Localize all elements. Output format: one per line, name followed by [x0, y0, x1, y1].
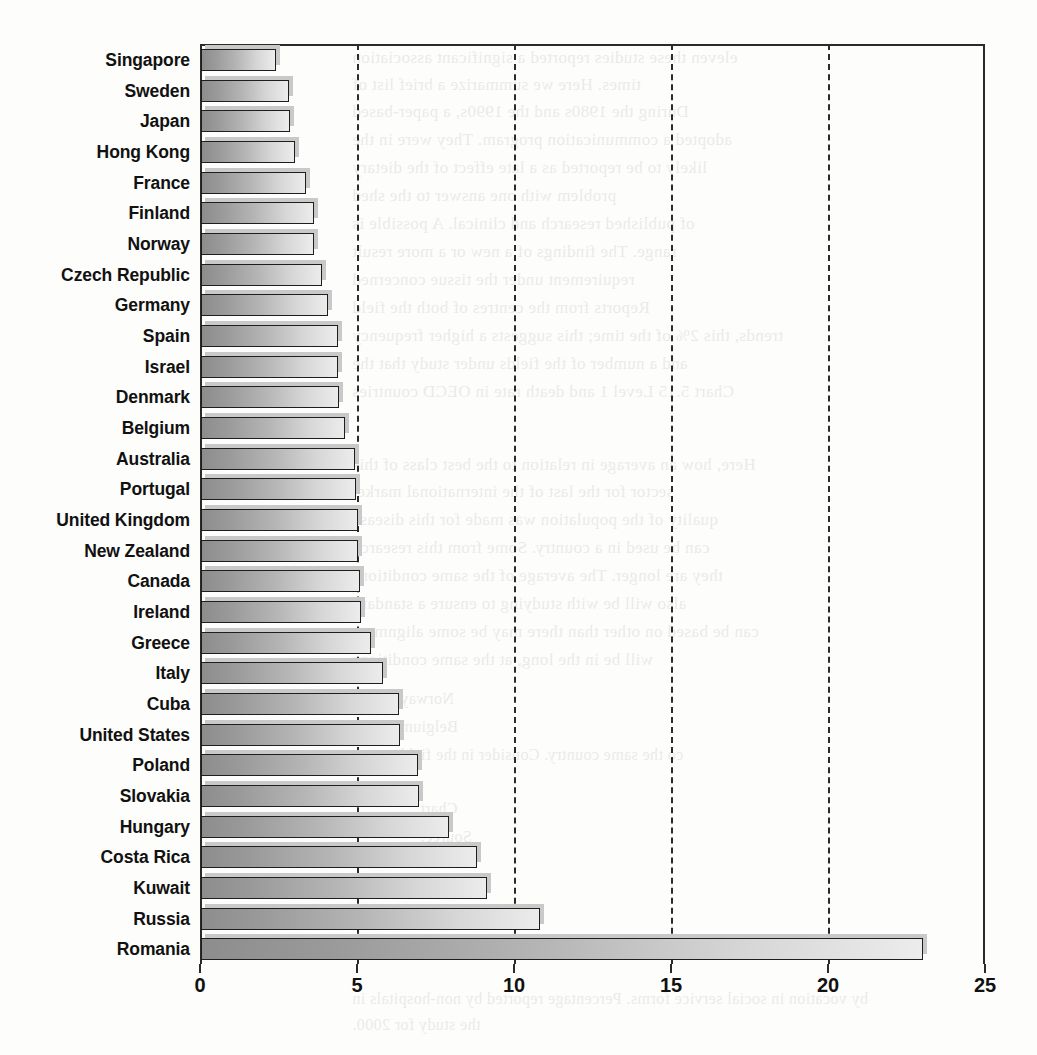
bar-wrapper — [201, 202, 314, 224]
category-label: Greece — [131, 632, 190, 653]
category-label: Ireland — [133, 601, 190, 622]
bar-row: Cuba — [0, 688, 1037, 720]
category-label: Israel — [145, 356, 190, 377]
bar-wrapper — [201, 294, 328, 316]
category-label: Romania — [117, 939, 190, 960]
bar-chart: SingaporeSwedenJapanHong KongFranceFinla… — [0, 0, 1037, 1055]
category-label: Singapore — [105, 49, 190, 70]
category-label: Canada — [127, 571, 190, 592]
bar-row: Slovakia — [0, 780, 1037, 812]
bar — [201, 509, 358, 531]
bar — [201, 540, 358, 562]
bar-wrapper — [201, 233, 314, 255]
bar-wrapper — [201, 172, 306, 194]
bar-wrapper — [201, 816, 449, 838]
bar-row: Costa Rica — [0, 841, 1037, 873]
bar-wrapper — [201, 724, 400, 746]
x-tick-label: 0 — [194, 974, 205, 997]
bar-row: Romania — [0, 933, 1037, 965]
category-label: Spain — [143, 325, 190, 346]
x-tick-mark — [356, 964, 358, 973]
bar — [201, 785, 419, 807]
bar-row: Hong Kong — [0, 136, 1037, 168]
bar-row: Belgium — [0, 412, 1037, 444]
x-tick-label: 25 — [974, 974, 996, 997]
bar-wrapper — [201, 264, 322, 286]
category-label: New Zealand — [84, 540, 190, 561]
bar — [201, 693, 399, 715]
bar — [201, 233, 314, 255]
bar — [201, 202, 314, 224]
bar — [201, 632, 371, 654]
category-label: Japan — [140, 111, 190, 132]
x-tick-label: 5 — [351, 974, 362, 997]
bar-row: Denmark — [0, 381, 1037, 413]
category-label: Portugal — [120, 479, 190, 500]
bar-wrapper — [201, 785, 419, 807]
bar-wrapper — [201, 846, 477, 868]
bar-wrapper — [201, 570, 360, 592]
category-label: Cuba — [147, 693, 190, 714]
bar-wrapper — [201, 509, 358, 531]
bar-wrapper — [201, 325, 338, 347]
x-tick-label: 20 — [817, 974, 839, 997]
bar-wrapper — [201, 662, 383, 684]
bar-row: Finland — [0, 197, 1037, 229]
bar-wrapper — [201, 693, 399, 715]
bar-row: Norway — [0, 228, 1037, 260]
bar — [201, 846, 477, 868]
bar-wrapper — [201, 141, 295, 163]
x-tick-mark — [827, 964, 829, 973]
bar-row: Portugal — [0, 473, 1037, 505]
bar — [201, 294, 328, 316]
category-label: Costa Rica — [101, 847, 190, 868]
bar-row: France — [0, 167, 1037, 199]
bar-row: Australia — [0, 443, 1037, 475]
bar — [201, 356, 338, 378]
bar — [201, 877, 487, 899]
category-label: Russia — [133, 908, 190, 929]
bar — [201, 264, 322, 286]
bar — [201, 754, 418, 776]
bar-wrapper — [201, 448, 355, 470]
bar-row: Sweden — [0, 75, 1037, 107]
bar-wrapper — [201, 632, 371, 654]
bar-row: New Zealand — [0, 535, 1037, 567]
bar-row: Kuwait — [0, 872, 1037, 904]
bar-row: United States — [0, 719, 1037, 751]
bar-wrapper — [201, 49, 276, 71]
bar-row: Japan — [0, 105, 1037, 137]
category-label: Sweden — [124, 80, 190, 101]
category-label: United States — [79, 724, 190, 745]
bar-row: Hungary — [0, 811, 1037, 843]
bar-wrapper — [201, 80, 289, 102]
x-tick-mark — [670, 964, 672, 973]
bar — [201, 172, 306, 194]
bar-row: Ireland — [0, 596, 1037, 628]
category-label: Denmark — [116, 387, 190, 408]
bar-wrapper — [201, 386, 339, 408]
bar — [201, 417, 345, 439]
bar — [201, 662, 383, 684]
bar-row: Germany — [0, 289, 1037, 321]
bar-wrapper — [201, 877, 487, 899]
bar — [201, 908, 540, 930]
x-tick-label: 10 — [503, 974, 525, 997]
bar — [201, 938, 923, 960]
x-tick-mark — [513, 964, 515, 973]
bar-wrapper — [201, 110, 290, 132]
category-label: Poland — [132, 755, 190, 776]
category-label: Belgium — [122, 417, 190, 438]
bar — [201, 601, 361, 623]
bar-wrapper — [201, 908, 540, 930]
x-tick-mark — [984, 964, 986, 973]
category-label: Australia — [116, 448, 190, 469]
bar-wrapper — [201, 478, 356, 500]
x-tick-label: 15 — [660, 974, 682, 997]
bar — [201, 816, 449, 838]
bar-wrapper — [201, 754, 418, 776]
category-label: Hungary — [120, 816, 190, 837]
bar-row: Italy — [0, 657, 1037, 689]
bar-wrapper — [201, 938, 923, 960]
category-label: Czech Republic — [61, 264, 190, 285]
